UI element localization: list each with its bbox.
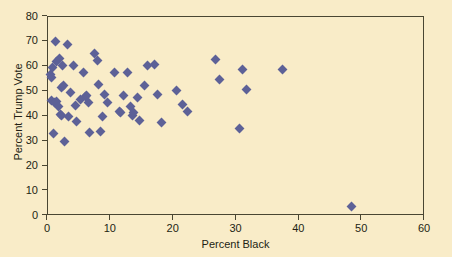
data-point — [234, 124, 244, 134]
data-point — [132, 93, 142, 103]
x-tick-mark — [235, 215, 236, 220]
x-tick-mark — [109, 215, 110, 220]
x-tick-mark — [298, 215, 299, 220]
y-tick-mark — [42, 140, 47, 141]
data-point — [278, 64, 288, 74]
data-point — [183, 107, 193, 117]
data-point — [242, 84, 252, 94]
data-point — [97, 112, 107, 122]
x-tick-label: 0 — [27, 223, 67, 234]
data-point — [135, 115, 145, 125]
data-point — [83, 98, 93, 108]
data-point — [72, 117, 82, 127]
data-point — [48, 129, 58, 139]
data-points-layer — [48, 17, 423, 214]
data-point — [68, 61, 78, 71]
x-axis-label: Percent Black — [47, 238, 424, 250]
y-tick-mark — [42, 65, 47, 66]
y-axis-label: Percent Trump Vote — [12, 12, 24, 212]
data-point — [149, 59, 159, 69]
x-tick-mark — [423, 215, 424, 220]
y-tick-mark — [42, 115, 47, 116]
x-tick-label: 20 — [153, 223, 193, 234]
data-point — [215, 74, 225, 84]
data-point — [66, 88, 76, 98]
data-point — [210, 54, 220, 64]
y-tick-mark — [42, 90, 47, 91]
plot-area — [47, 16, 424, 215]
y-tick-mark — [42, 189, 47, 190]
x-tick-label: 10 — [90, 223, 130, 234]
data-point — [172, 85, 182, 95]
data-point — [156, 118, 166, 128]
y-tick-mark — [42, 165, 47, 166]
x-tick-mark — [172, 215, 173, 220]
data-point — [152, 89, 162, 99]
x-tick-label: 50 — [341, 223, 381, 234]
data-point — [110, 68, 120, 78]
x-tick-label: 30 — [216, 223, 256, 234]
scatter-plot-figure: 01020304050607080 0102030405060 Percent … — [0, 0, 452, 257]
x-tick-label: 60 — [404, 223, 444, 234]
x-tick-mark — [360, 215, 361, 220]
data-point — [347, 201, 357, 211]
data-point — [140, 80, 150, 90]
y-tick-mark — [42, 15, 47, 16]
data-point — [95, 126, 105, 136]
data-point — [116, 108, 126, 118]
data-point — [51, 36, 61, 46]
data-point — [238, 64, 248, 74]
x-tick-mark — [46, 215, 47, 220]
data-point — [93, 79, 103, 89]
data-point — [78, 68, 88, 78]
data-point — [60, 136, 70, 146]
data-point — [118, 90, 128, 100]
data-point — [122, 68, 132, 78]
y-tick-mark — [42, 40, 47, 41]
x-tick-label: 40 — [278, 223, 318, 234]
data-point — [85, 128, 95, 138]
data-point — [63, 39, 73, 49]
